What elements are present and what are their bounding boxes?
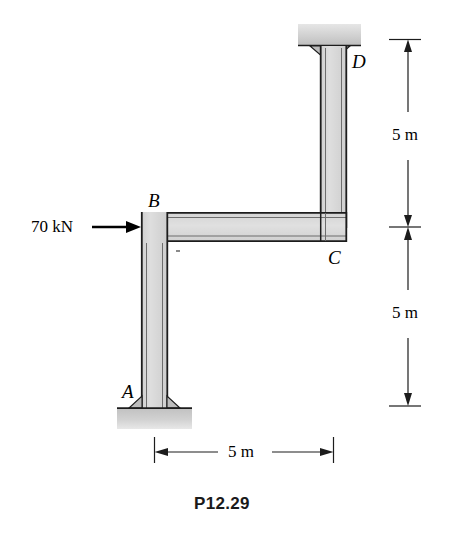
dimension-label-horizontal: 5 m [228,443,254,460]
dimension-label-vertical-upper: 5 m [392,126,418,143]
joint-label-c: C [328,248,341,267]
column-member-cd [320,46,347,228]
ceiling-support-block [298,24,361,46]
load-label-70kn: 70 kN [31,218,73,235]
joint-label-b: B [148,191,160,210]
beam-member-bc [141,212,347,242]
figure-caption: P12.29 [194,495,250,512]
ground-support-block [117,408,192,429]
load-arrow-70kn [92,221,141,233]
joint-label-d: D [352,52,366,71]
dimension-label-vertical-lower: 5 m [392,304,418,321]
joint-label-a: A [122,382,134,401]
base-gusset-right [167,396,180,408]
